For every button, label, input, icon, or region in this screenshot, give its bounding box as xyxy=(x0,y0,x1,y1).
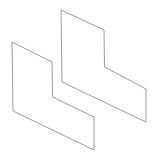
isometric-shapes-figure: Isometric Z-Shaped Panels Two identical … xyxy=(0,0,156,164)
